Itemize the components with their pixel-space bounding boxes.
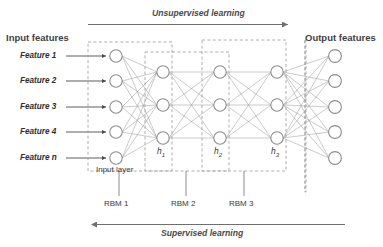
hidden-layer-label-h3: h3 [271,147,279,158]
input-layer-label: Input layer [96,166,133,174]
node-input-4 [110,126,122,138]
rbm-label-3: RBM 3 [229,200,253,208]
node-output-2 [329,75,342,88]
node-input-2 [110,75,122,87]
node-output-1 [329,50,342,63]
node-output-5 [329,152,342,165]
node-h2-2 [214,99,226,111]
hidden-layer-label-h1: h1 [157,147,165,158]
feature-input-arrows [66,56,106,158]
feature-label-4: Feature 4 [20,128,56,136]
node-input-1 [110,50,122,62]
node-h3-2 [271,99,283,111]
network-nodes [110,50,342,165]
node-output-4 [329,126,342,139]
unsupervised-learning-label: Unsupervised learning [152,9,245,18]
node-h1-2 [157,99,169,111]
input-features-header: Input features [6,33,69,43]
node-h2-3 [214,132,226,144]
rbm-leader-lines [119,171,244,196]
supervised-learning-label: Supervised learning [161,229,243,238]
node-input-3 [110,101,122,113]
node-h1-1 [157,66,169,78]
node-output-3 [329,101,342,114]
node-h1-3 [157,132,169,144]
node-h3-3 [271,132,283,144]
feature-label-3: Feature 3 [20,103,56,111]
rbm-label-1: RBM 1 [104,200,128,208]
feature-label-1: Feature 1 [20,52,56,60]
h1-sub: 1 [162,152,165,158]
hidden-layer-label-h2: h2 [214,147,222,158]
node-h3-1 [271,66,283,78]
rbm-label-2: RBM 2 [171,200,195,208]
h3-sub: 3 [276,152,279,158]
h2-sub: 2 [219,152,222,158]
dbn-diagram: Unsupervised learning Input features Out… [0,0,383,247]
feature-label-2: Feature 2 [20,77,56,85]
feature-label-n: Feature n [20,154,57,162]
node-input-5 [110,152,122,164]
output-features-header: Output features [305,33,376,43]
node-h2-1 [214,66,226,78]
